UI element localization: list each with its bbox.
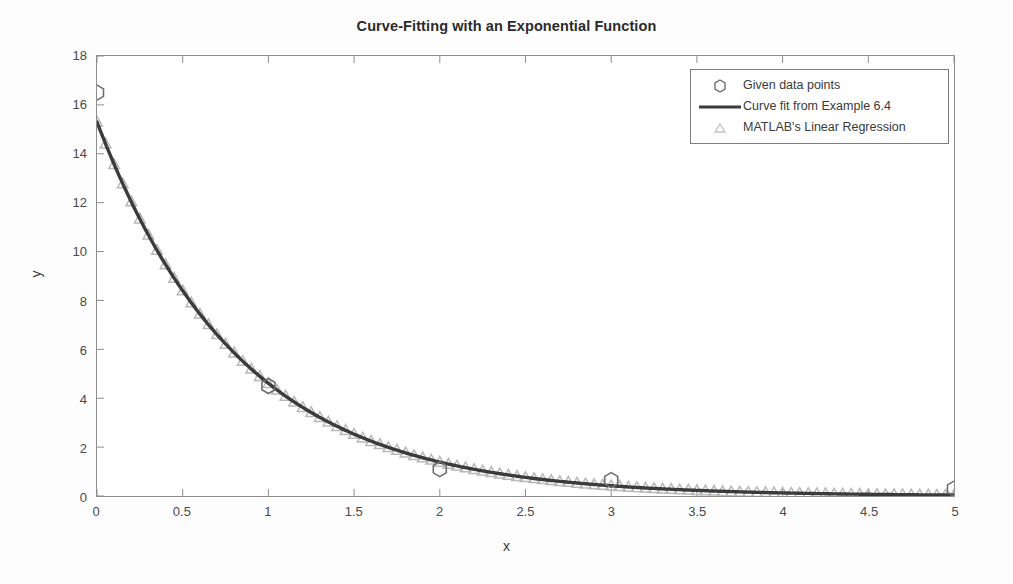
x-axis-label: x: [0, 538, 1013, 554]
legend-item[interactable]: Given data points: [691, 75, 948, 96]
y-tick-label: 18: [73, 48, 87, 63]
series-matlab-linear-regression: [97, 116, 954, 496]
legend-item-label: Curve fit from Example 6.4: [743, 100, 891, 113]
x-tick-label: 4.5: [860, 504, 878, 519]
y-tick-label: 2: [80, 440, 87, 455]
x-tick-label: 3.5: [688, 504, 706, 519]
chart-title: Curve-Fitting with an Exponential Functi…: [0, 18, 1013, 34]
y-tick-label: 6: [80, 342, 87, 357]
y-tick-label: 16: [73, 97, 87, 112]
series-given-data-points: [97, 85, 954, 496]
hexagon-marker-icon: [697, 78, 743, 94]
legend-item[interactable]: MATLAB's Linear Regression: [691, 117, 948, 138]
x-tick-label: 0: [92, 504, 99, 519]
figure-canvas: Curve-Fitting with an Exponential Functi…: [0, 0, 1013, 584]
line-marker-icon: [697, 102, 743, 112]
x-tick-label: 5: [951, 504, 958, 519]
y-tick-label: 12: [73, 195, 87, 210]
x-tick-label: 1: [264, 504, 271, 519]
y-axis-label: y: [28, 271, 44, 278]
legend-item-label: MATLAB's Linear Regression: [743, 121, 906, 134]
y-tick-label: 8: [80, 293, 87, 308]
x-tick-label: 3: [608, 504, 615, 519]
x-tick-label: 4: [780, 504, 787, 519]
x-tick-label: 2.5: [516, 504, 534, 519]
x-tick-label: 0.5: [173, 504, 191, 519]
legend[interactable]: Given data points Curve fit from Example…: [690, 69, 949, 144]
y-tick-label: 14: [73, 146, 87, 161]
x-tick-label: 1.5: [345, 504, 363, 519]
series-curve-fit: [97, 122, 954, 495]
triangle-marker-icon: [697, 120, 743, 136]
y-tick-label: 10: [73, 244, 87, 259]
legend-item[interactable]: Curve fit from Example 6.4: [691, 96, 948, 117]
x-tick-label: 2: [436, 504, 443, 519]
y-tick-label: 4: [80, 391, 87, 406]
legend-item-label: Given data points: [743, 79, 840, 92]
y-tick-label: 0: [80, 490, 87, 505]
